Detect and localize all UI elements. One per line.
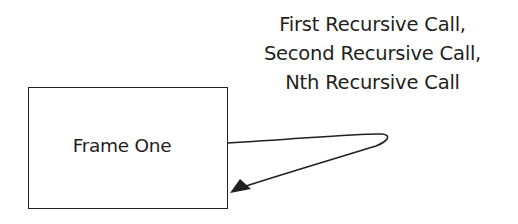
recursive-loop-arrow — [0, 0, 518, 224]
loop-arrow-path — [228, 134, 388, 186]
